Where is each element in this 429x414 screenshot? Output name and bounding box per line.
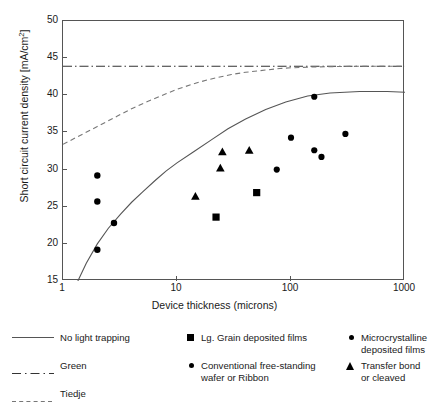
circle-marker-icon — [189, 363, 194, 368]
data-point-triangle — [218, 147, 227, 155]
series-line-0 — [78, 92, 405, 281]
legend-item: No light trapping — [10, 332, 130, 344]
data-point-triangle — [216, 164, 225, 172]
y-tick-label: 20 — [24, 238, 58, 248]
data-point-circle — [342, 131, 348, 137]
data-point-circle — [288, 135, 294, 141]
y-tick-mark — [62, 57, 67, 58]
series-markers-3 — [212, 189, 260, 221]
legend-item: Transfer bond or cleaved — [310, 360, 429, 384]
legend-item: Microcrystalline deposited films — [310, 332, 427, 356]
square-marker-icon — [187, 334, 194, 341]
legend-label: Microcrystalline deposited films — [361, 332, 427, 356]
legend-label: Conventional free-standing wafer or Ribb… — [201, 360, 316, 384]
series-markers-4 — [94, 172, 117, 253]
data-point-triangle — [245, 146, 254, 154]
legend-label: Tiedje — [60, 388, 86, 400]
legend-item: Conventional free-standing wafer or Ribb… — [150, 360, 316, 384]
x-tick-mark — [290, 276, 291, 281]
legend-item: Lg. Grain deposited films — [150, 332, 307, 344]
data-point-circle — [318, 154, 324, 160]
y-tick-mark — [62, 206, 67, 207]
plot-area — [62, 20, 404, 280]
data-point-square — [253, 189, 260, 196]
x-tick-label: 1 — [42, 283, 82, 293]
x-tick-label: 100 — [270, 283, 310, 293]
x-tick-label: 10 — [156, 283, 196, 293]
circle-marker-icon — [349, 335, 355, 341]
series-line-2 — [63, 66, 405, 144]
legend-item: Tiedje — [10, 388, 86, 400]
data-point-circle — [111, 220, 117, 226]
solid-line-icon — [12, 337, 54, 338]
x-tick-label: 1000 — [384, 283, 424, 293]
chart-figure: 1520253035404550 1101001000 Short circui… — [0, 0, 429, 414]
legend-label: Green — [60, 360, 87, 372]
y-axis-title: Short circuit current density [mA/cm2] — [18, 16, 30, 216]
data-point-triangle — [191, 192, 200, 200]
legend-label: Transfer bond or cleaved — [361, 360, 429, 384]
data-point-circle — [94, 172, 100, 178]
y-tick-mark — [62, 94, 67, 95]
data-point-circle — [311, 147, 317, 153]
x-tick-mark — [176, 276, 177, 281]
x-axis-title: Device thickness (microns) — [0, 299, 429, 311]
data-point-circle — [274, 166, 280, 172]
y-tick-mark — [62, 243, 67, 244]
series-markers-5 — [274, 94, 349, 173]
data-point-circle — [94, 198, 100, 204]
series-markers-6 — [191, 146, 253, 200]
legend-label: No light trapping — [60, 332, 130, 344]
chart-legend: No light trappingGreenTiedjeLg. Grain de… — [10, 328, 429, 412]
plot-canvas — [63, 21, 405, 281]
triangle-marker-icon — [346, 362, 354, 370]
legend-label: Lg. Grain deposited films — [201, 332, 307, 344]
legend-item: Green — [10, 360, 87, 372]
data-point-circle — [311, 94, 317, 100]
y-tick-mark — [62, 169, 67, 170]
data-point-square — [212, 214, 219, 221]
y-tick-mark — [62, 131, 67, 132]
data-point-circle — [94, 247, 100, 253]
